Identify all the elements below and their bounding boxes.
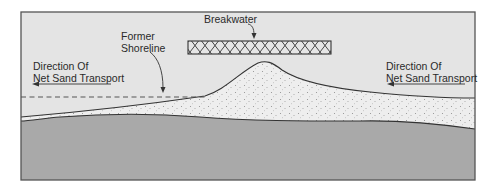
left-transport-label: Direction Of Net Sand Transport: [33, 61, 124, 84]
left-transport-line1: Direction Of: [33, 61, 124, 73]
former-shoreline-line2: Shoreline: [121, 43, 165, 55]
breakwater-diagram: [0, 0, 495, 189]
breakwater-label: Breakwater: [204, 14, 257, 26]
right-transport-label: Direction Of Net Sand Transport: [386, 61, 477, 84]
breakwater-label-text: Breakwater: [204, 14, 257, 26]
seabed-layer: [21, 114, 475, 180]
former-shoreline-label: Former Shoreline: [121, 31, 165, 54]
left-transport-line2: Net Sand Transport: [33, 73, 124, 85]
breakwater: [188, 41, 331, 54]
former-shoreline-line1: Former: [121, 31, 165, 43]
right-transport-line1: Direction Of: [386, 61, 477, 73]
right-transport-line2: Net Sand Transport: [386, 73, 477, 85]
